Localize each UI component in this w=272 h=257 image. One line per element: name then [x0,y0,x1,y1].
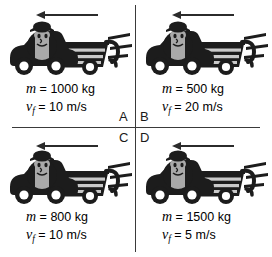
quadrant-label-a: A [119,110,128,123]
quadrant-b-caption: m = 500 kg vf = 20 m/s [162,80,272,120]
velocity-subscript: f [32,234,35,244]
quadrant-b: m = 500 kg vf = 20 m/s [136,0,272,128]
quadrant-label-b: B [140,110,149,123]
mass-line: m = 1500 kg [162,208,272,226]
mass-symbol: m [26,209,36,224]
quadrant-label-d: D [140,131,149,144]
car-towing-trailer-icon [4,149,134,207]
arrow-shaft [42,145,98,147]
mass-symbol: m [162,209,172,224]
car-towing-trailer-icon [140,149,270,207]
velocity-line: vf = 20 m/s [162,98,272,120]
velocity-value: = 10 m/s [38,100,86,114]
mass-line: m = 1000 kg [26,80,136,98]
mass-value: = 1000 kg [40,82,95,96]
velocity-line: vf = 10 m/s [26,226,136,248]
car-towing-trailer-icon [4,20,134,78]
quadrant-d: m = 1500 kg vf = 5 m/s [136,129,272,257]
quadrant-label-c: C [119,131,128,144]
mass-value: = 500 kg [176,82,224,96]
mass-symbol: m [26,81,36,96]
mass-value: = 1500 kg [176,210,231,224]
left-arrow-icon [172,10,234,19]
arrow-shaft [178,14,234,16]
mass-line: m = 500 kg [162,80,272,98]
mass-symbol: m [162,81,172,96]
arrow-shaft [178,145,234,147]
quadrant-c: m = 800 kg vf = 10 m/s [0,129,136,257]
vertical-divider [135,5,136,252]
mass-value: = 800 kg [40,210,88,224]
horizontal-divider [12,127,260,128]
left-arrow-icon [36,10,98,19]
velocity-subscript: f [168,106,171,116]
quadrant-c-caption: m = 800 kg vf = 10 m/s [26,208,136,248]
quadrant-d-caption: m = 1500 kg vf = 5 m/s [162,208,272,248]
physics-comparison-figure: m = 1000 kg vf = 10 m/s [0,0,272,257]
arrow-shaft [42,14,98,16]
velocity-subscript: f [32,106,35,116]
velocity-value: = 10 m/s [38,228,86,242]
velocity-value: = 20 m/s [174,100,222,114]
quadrant-a: m = 1000 kg vf = 10 m/s [0,0,136,128]
velocity-value: = 5 m/s [174,228,215,242]
velocity-subscript: f [168,234,171,244]
mass-line: m = 800 kg [26,208,136,226]
car-towing-trailer-icon [140,20,270,78]
velocity-line: vf = 5 m/s [162,226,272,248]
